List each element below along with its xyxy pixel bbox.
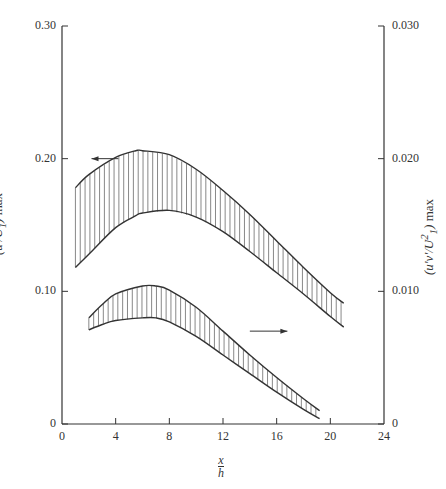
chart-canvas — [0, 0, 446, 489]
right-axis-arrow-head — [280, 329, 287, 334]
x-tick-label: 16 — [271, 430, 283, 442]
x-tick-label: 24 — [378, 430, 390, 442]
y-tick-label-right: 0 — [392, 417, 398, 429]
x-tick-label: 20 — [324, 430, 336, 442]
series-1-lower-curve — [89, 317, 320, 418]
y-tick-label-right: 0.010 — [392, 284, 419, 296]
left-axis-arrow-head — [92, 156, 99, 161]
x-tick-label: 0 — [59, 430, 65, 442]
y-tick-label-left: 0.30 — [35, 19, 56, 31]
right-axis-label: (u'v'/U21) max — [418, 199, 439, 275]
series-0-lower-curve — [75, 210, 343, 327]
x-tick-label: 8 — [166, 430, 172, 442]
y-tick-label-left: 0 — [50, 417, 56, 429]
series-1-upper-curve — [89, 285, 320, 410]
left-axis-label: (u'/U1) max — [0, 193, 8, 255]
series-0-upper-curve — [75, 150, 343, 303]
y-tick-label-left: 0.10 — [35, 284, 56, 296]
y-tick-label-right: 0.030 — [392, 19, 419, 31]
x-tick-label: 12 — [217, 430, 229, 442]
y-tick-label-left: 0.20 — [35, 152, 56, 164]
y-tick-label-right: 0.020 — [392, 152, 419, 164]
x-axis-label: x h — [218, 454, 224, 479]
x-tick-label: 4 — [113, 430, 119, 442]
